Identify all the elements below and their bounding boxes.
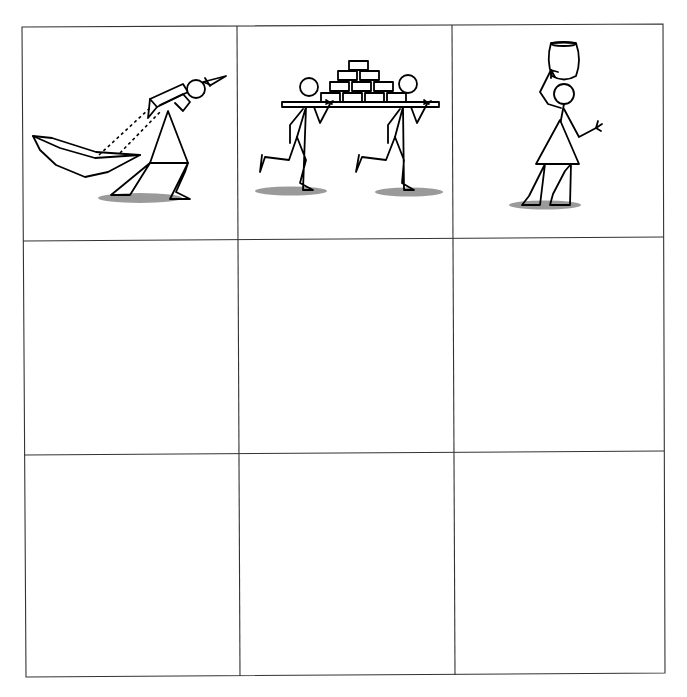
figures-carrying-bricks-icon — [255, 61, 443, 197]
grid-vline-1 — [237, 26, 240, 676]
cell-3-2 — [243, 457, 451, 671]
cell-2-3 — [457, 242, 661, 448]
cell-1-1 — [33, 76, 226, 203]
cell-1-2 — [255, 61, 443, 197]
cell-2-2 — [242, 243, 450, 449]
grid-hline-1 — [23, 237, 664, 241]
cell-3-3 — [458, 456, 662, 670]
figure-carrying-pot-icon — [509, 42, 602, 210]
bricks-stack — [321, 61, 406, 102]
grid-vline-2 — [452, 25, 455, 675]
cell-3-1 — [28, 458, 236, 672]
cell-1-3 — [509, 42, 602, 210]
cell-2-1 — [26, 244, 234, 450]
grid-hline-2 — [24, 451, 664, 455]
worksheet-grid — [0, 0, 687, 697]
figure-pulling-boat-icon — [33, 76, 226, 203]
shadow-left — [255, 187, 327, 196]
grid-outer-border — [22, 24, 665, 677]
grid-lines — [22, 24, 665, 677]
shadow-right — [375, 188, 443, 197]
